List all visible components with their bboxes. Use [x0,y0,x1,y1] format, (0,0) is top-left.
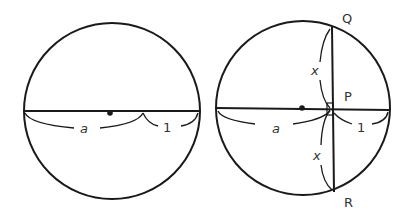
right-diagram: a 1 x x P Q R [216,11,390,210]
brace-x-top [320,29,330,62]
brace-x-top-lower [320,80,330,108]
right-label-one: 1 [357,120,365,135]
label-x-top: x [310,63,319,78]
geometry-figure: a 1 a 1 x x P Q R [0,0,407,218]
right-label-a: a [272,121,280,136]
right-center-dot [299,105,305,111]
label-R: R [344,195,353,210]
left-label-one: 1 [163,120,171,135]
left-diagram: a 1 [24,23,200,199]
label-Q: Q [342,11,352,26]
brace-x-bottom-lower [321,165,332,190]
left-center-dot [107,110,113,116]
right-brace-one [334,113,352,124]
left-brace-a-right [100,113,143,128]
left-brace-one [143,113,158,126]
label-P: P [344,89,352,104]
left-label-a: a [80,121,88,136]
left-brace-a [25,113,74,128]
label-x-bottom: x [312,148,321,163]
right-brace-a [218,111,255,124]
left-brace-one-right [181,113,198,126]
right-brace-one-right [372,112,388,124]
